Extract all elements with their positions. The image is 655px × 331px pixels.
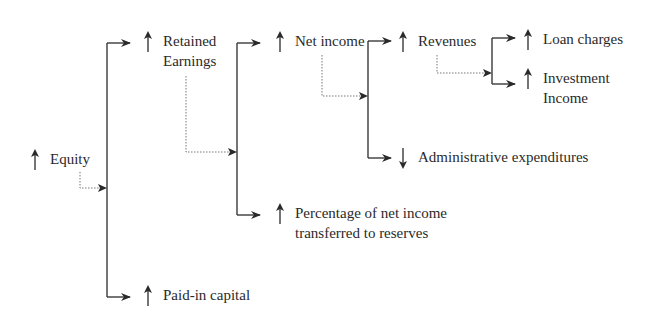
- revenues-label: Revenues: [418, 31, 476, 51]
- net-income-label: Net income: [295, 31, 365, 51]
- node-equity: Equity: [50, 149, 90, 169]
- up-arrow-icon: [275, 31, 285, 53]
- node-revenues: Revenues: [418, 31, 476, 51]
- loan-charges-label: Loan charges: [543, 29, 623, 49]
- percentage-reserves-label-line2: transferred to reserves: [295, 223, 447, 243]
- bracket-equity: [107, 43, 130, 297]
- dotted-link-net-income: [322, 55, 360, 96]
- up-arrow-icon: [30, 149, 40, 171]
- percentage-reserves-label-line1: Percentage of net income: [295, 203, 447, 223]
- bracket-revenues: [492, 38, 515, 84]
- dotted-link-retained: [186, 76, 229, 152]
- node-loan-charges: Loan charges: [543, 29, 623, 49]
- down-arrow-icon: [398, 147, 408, 169]
- up-arrow-icon: [275, 203, 285, 225]
- up-arrow-icon: [143, 285, 153, 307]
- retained-earnings-label-line1: Retained: [163, 31, 216, 51]
- up-arrow-icon: [143, 31, 153, 53]
- up-arrow-icon: [398, 31, 408, 53]
- up-arrow-icon: [523, 68, 533, 90]
- investment-income-label-line2: Income: [543, 88, 610, 108]
- bracket-net-income: [368, 41, 391, 158]
- node-percentage-reserves: Percentage of net income transferred to …: [295, 203, 447, 243]
- bracket-retained-earnings: [237, 43, 260, 215]
- paid-in-capital-label: Paid-in capital: [163, 285, 250, 305]
- up-arrow-icon: [523, 29, 533, 51]
- node-investment-income: Investment Income: [543, 68, 610, 108]
- equity-label: Equity: [50, 149, 90, 169]
- node-administrative-expenditures: Administrative expenditures: [418, 147, 588, 167]
- retained-earnings-label-line2: Earnings: [163, 51, 216, 71]
- dotted-link-revenues: [437, 55, 485, 73]
- administrative-expenditures-label: Administrative expenditures: [418, 147, 588, 167]
- node-retained-earnings: Retained Earnings: [163, 31, 216, 71]
- dotted-link-equity: [80, 172, 100, 188]
- node-paid-in-capital: Paid-in capital: [163, 285, 250, 305]
- node-net-income: Net income: [295, 31, 365, 51]
- equity-decomposition-diagram: Equity Retained Earnings Paid-in capital…: [0, 0, 655, 331]
- investment-income-label-line1: Investment: [543, 68, 610, 88]
